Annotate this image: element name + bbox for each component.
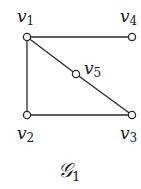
node-label-v2: v2 [17,125,34,144]
node-label-main: v [120,6,130,26]
edge-v1-v5 [27,37,76,74]
node-label-v4: v4 [120,8,137,27]
graph-diagram: v1 v2 v3 v4 v5 𝒢1 [0,0,141,189]
node-v2 [23,111,30,118]
node-label-main: v [17,6,27,26]
node-label-sub: 2 [27,131,35,145]
node-label-sub: 4 [130,14,138,28]
node-label-v1: v1 [17,8,34,27]
node-label-sub: 5 [94,66,102,80]
graph-caption: 𝒢1 [58,160,80,183]
node-v5 [72,70,79,77]
node-v4 [128,33,135,40]
node-label-v3: v3 [120,125,137,144]
node-v1 [23,33,30,40]
edge-v5-v3 [76,74,132,115]
node-label-v5: v5 [84,60,101,79]
node-label-main: v [120,123,130,143]
node-label-sub: 1 [27,14,35,28]
caption-sub: 1 [72,169,80,184]
node-v3 [128,111,135,118]
node-label-main: v [84,58,94,78]
node-label-main: v [17,123,27,143]
caption-main: 𝒢 [58,158,72,182]
node-label-sub: 3 [130,131,138,145]
